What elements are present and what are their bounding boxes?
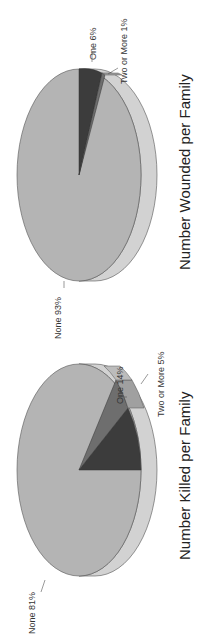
wounded-none-label: None 93% <box>53 297 63 339</box>
wounded-chart-title: Number Wounded per Family <box>176 74 193 270</box>
killed-one-label: One 14% <box>115 366 125 404</box>
killed-two-leader <box>141 374 148 384</box>
killed-none-leader <box>41 580 45 592</box>
killed-two-label: Two or More 5% <box>156 351 166 417</box>
wounded-one-label: One 6% <box>88 27 98 60</box>
wounded-two-label: Two or More 1% <box>119 18 129 84</box>
wounded-pie-chart: None 93% One 6% Two or More 1% Number Wo… <box>17 18 193 339</box>
killed-none-label: None 81% <box>27 592 37 634</box>
pie-charts-svg: None 81% One 14% Two or More 5% Number K… <box>0 0 209 644</box>
killed-pie-chart: None 81% One 14% Two or More 5% Number K… <box>17 351 193 634</box>
killed-chart-title: Number Killed per Family <box>176 391 193 560</box>
rotated-chart-canvas: None 81% One 14% Two or More 5% Number K… <box>0 0 209 644</box>
